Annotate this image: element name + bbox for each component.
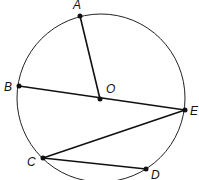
- point-A: [78, 14, 83, 19]
- label-D: D: [151, 168, 160, 180]
- label-A: A: [72, 0, 81, 12]
- point-D: [144, 167, 149, 172]
- point-B: [17, 84, 22, 89]
- label-C: C: [27, 155, 36, 169]
- label-B: B: [4, 80, 12, 94]
- point-C: [41, 156, 46, 161]
- point-O: [98, 97, 103, 102]
- label-E: E: [190, 104, 199, 118]
- point-E: [183, 108, 188, 113]
- segment-AO: [80, 16, 100, 99]
- segment-EC: [43, 110, 185, 158]
- segment-CD: [43, 158, 146, 169]
- circle-diagram: A O B E C D: [0, 0, 199, 180]
- label-O: O: [106, 82, 115, 96]
